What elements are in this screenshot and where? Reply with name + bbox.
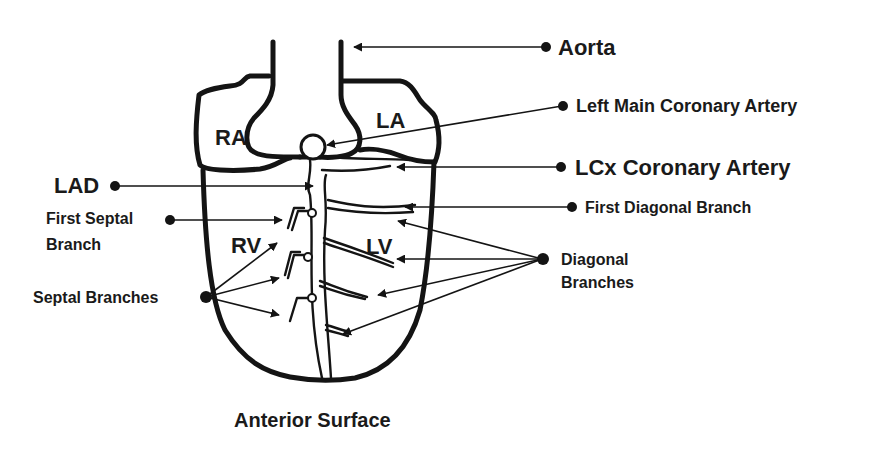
first-septal-pointer	[165, 215, 282, 225]
first-septal-label-line2: Branch	[46, 236, 101, 253]
first-diagonal-label: First Diagonal Branch	[585, 199, 751, 216]
first-septal-label-line1: First Septal	[46, 210, 133, 227]
rv-label: RV	[231, 233, 261, 258]
diagonal-branches-label-line2: Branches	[561, 274, 634, 291]
aorta-label: Aorta	[558, 35, 616, 60]
diagonal-branches-label-line1: Diagonal	[561, 251, 629, 268]
left-main-pointer	[327, 101, 568, 145]
septal-branches-label: Septal Branches	[33, 289, 158, 306]
heart-outline	[196, 42, 439, 380]
left-main-label: Left Main Coronary Artery	[576, 96, 797, 116]
lcx-label: LCx Coronary Artery	[575, 155, 791, 180]
ventricles-outline	[203, 162, 434, 380]
lad-pointer	[110, 181, 313, 191]
heart-anatomy-diagram: RA LA RV LV Aorta Left Main Coronary Art…	[0, 0, 877, 457]
aorta-pointer	[354, 42, 551, 52]
lad-label: LAD	[54, 173, 99, 198]
aorta-left-wall	[247, 42, 300, 157]
coronary-vessels	[285, 156, 415, 378]
lv-label: LV	[366, 234, 393, 259]
ra-label: RA	[215, 125, 247, 150]
diagram-title: Anterior Surface	[234, 409, 391, 431]
la-label: LA	[376, 108, 405, 133]
